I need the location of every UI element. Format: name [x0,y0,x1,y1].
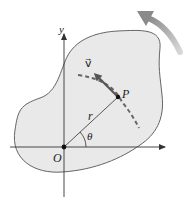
angle-label: θ [87,131,92,142]
rotation-diagram: y v⃗ P r θ O [0,0,186,205]
origin-dot [62,145,67,150]
point-p-dot [116,95,120,99]
diagram-graphic [0,0,186,205]
y-axis-label: y [59,24,64,35]
radius-label: r [88,110,93,122]
velocity-label: v⃗ [85,58,92,69]
rigid-body [14,30,162,172]
point-p-label: P [122,88,129,100]
origin-label: O [53,152,62,164]
